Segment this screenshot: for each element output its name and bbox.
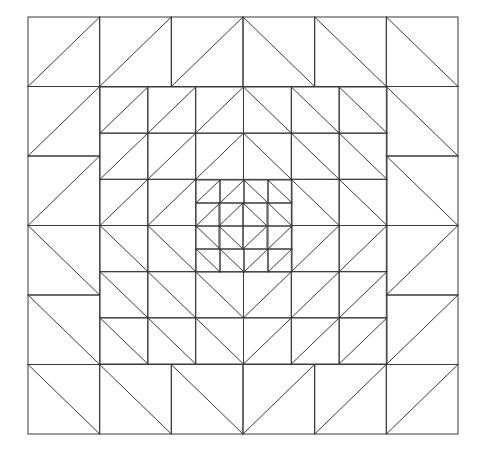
- diagonal-line: [100, 87, 148, 133]
- diagonal-line: [386, 87, 458, 157]
- diagonal-line: [291, 226, 339, 272]
- diagonal-line: [171, 17, 243, 87]
- diagonal-line: [268, 226, 292, 249]
- diagonal-line: [243, 226, 267, 249]
- diagonal-line: [268, 203, 292, 226]
- diagonal-line: [244, 249, 268, 272]
- diagonal-line: [196, 249, 220, 272]
- diagonal-line: [244, 318, 292, 364]
- diagonal-line: [196, 133, 244, 179]
- diagonal-line: [339, 87, 387, 133]
- diagonal-line: [386, 226, 458, 296]
- diagonal-line: [28, 87, 100, 157]
- diagonal-line: [339, 133, 387, 179]
- diagonal-line: [148, 87, 196, 133]
- triangle-cells: [28, 17, 458, 434]
- diagonal-line: [100, 226, 148, 272]
- diagonal-line: [220, 180, 244, 203]
- diagonal-line: [171, 365, 243, 435]
- diagonal-line: [148, 133, 196, 179]
- diagonal-line: [28, 295, 100, 365]
- diagonal-line: [243, 17, 315, 87]
- diagonal-line: [291, 272, 339, 318]
- diagonal-line: [100, 17, 172, 87]
- diagonal-line: [28, 365, 100, 435]
- diagonal-line: [291, 318, 339, 364]
- diagonal-line: [196, 272, 244, 318]
- quilt-pattern-svg: [0, 0, 479, 462]
- diagonal-line: [315, 17, 387, 87]
- diagonal-line: [219, 226, 243, 249]
- diagonal-line: [100, 179, 148, 225]
- diagonal-line: [339, 179, 387, 225]
- diagonal-line: [28, 156, 100, 226]
- diagonal-line: [100, 365, 172, 435]
- diagonal-line: [148, 272, 196, 318]
- diagonal-line: [244, 180, 268, 203]
- diagonal-line: [243, 365, 315, 435]
- diagonal-line: [243, 203, 267, 226]
- diagonal-line: [148, 179, 196, 225]
- diagonal-line: [244, 272, 292, 318]
- diagonal-line: [291, 179, 339, 225]
- diagonal-line: [291, 87, 339, 133]
- diagonal-line: [148, 226, 196, 272]
- diagonal-line: [386, 295, 458, 365]
- diagonal-line: [100, 272, 148, 318]
- diagonal-line: [196, 180, 220, 203]
- diagonal-line: [196, 226, 220, 249]
- diagonal-line: [220, 249, 244, 272]
- diagonal-line: [100, 133, 148, 179]
- diagonal-line: [28, 17, 100, 87]
- diagonal-line: [28, 226, 100, 296]
- diagonal-line: [196, 318, 244, 364]
- diagonal-line: [244, 87, 292, 133]
- diagonal-line: [386, 156, 458, 226]
- quilt-diagram: Concentric half-square-triangle quilt pa…: [0, 0, 479, 462]
- diagonal-line: [196, 203, 220, 226]
- diagonal-line: [196, 87, 244, 133]
- diagonal-line: [219, 203, 243, 226]
- diagonal-line: [268, 180, 292, 203]
- diagonal-line: [339, 272, 387, 318]
- diagonal-line: [386, 365, 458, 435]
- diagonal-line: [315, 365, 387, 435]
- diagonal-line: [268, 249, 292, 272]
- diagonal-line: [339, 226, 387, 272]
- diagonal-line: [339, 318, 387, 364]
- diagonal-line: [244, 133, 292, 179]
- diagonal-line: [100, 318, 148, 364]
- diagonal-line: [148, 318, 196, 364]
- diagonal-line: [386, 17, 458, 87]
- diagonal-line: [291, 133, 339, 179]
